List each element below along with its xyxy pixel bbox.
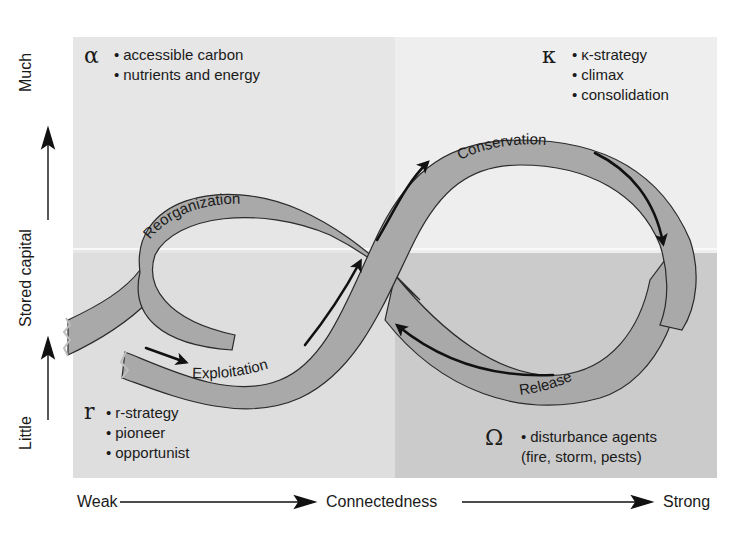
y-axis-title: Stored capital (17, 229, 35, 327)
x-axis-title: Connectedness (326, 493, 437, 511)
alpha-item: nutrients and energy (114, 65, 260, 85)
arrow-exploitation-in (146, 348, 185, 362)
y-axis-low-label: Little (17, 416, 35, 450)
r-item: opportunist (106, 443, 189, 463)
kappa-item: κ-strategy (572, 45, 669, 65)
alpha-annotation: α accessible carbon nutrients and energy (84, 45, 260, 85)
r-item: r-strategy (106, 403, 189, 423)
omega-annotation: Ω disturbance agents (fire, storm, pests… (485, 427, 657, 467)
omega-item: disturbance agents (521, 427, 657, 447)
r-annotation: r r-strategy pioneer opportunist (84, 403, 189, 463)
y-axis-arrows (42, 128, 54, 420)
phase-label-exploitation: Exploitation (192, 355, 270, 381)
kappa-symbol: κ (542, 45, 556, 67)
r-symbol: r (84, 401, 95, 423)
x-axis-low-label: Weak (77, 493, 118, 511)
omega-item-detail: (fire, storm, pests) (521, 447, 657, 467)
x-axis-high-label: Strong (663, 493, 710, 511)
incoming-stub (64, 270, 150, 356)
omega-symbol: Ω (485, 427, 503, 449)
kappa-item: consolidation (572, 85, 669, 105)
adaptive-cycle-figure: Reorganization Exploitation Conservation… (0, 0, 745, 537)
kappa-item: climax (572, 65, 669, 85)
r-item: pioneer (106, 423, 189, 443)
alpha-item: accessible carbon (114, 45, 260, 65)
alpha-symbol: α (84, 45, 99, 67)
kappa-annotation: κ κ-strategy climax consolidation (542, 45, 669, 105)
y-axis-high-label: Much (17, 53, 35, 92)
